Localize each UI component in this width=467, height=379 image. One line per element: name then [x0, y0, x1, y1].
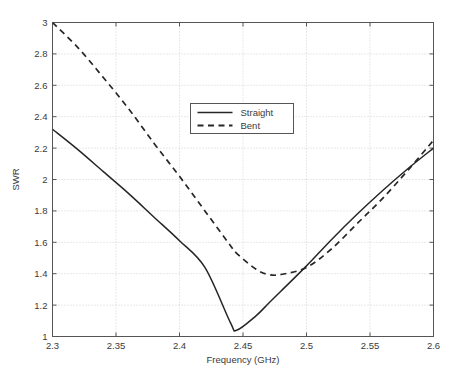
chart-figure: 11.21.41.61.822.22.42.62.832.32.352.42.4… — [0, 0, 467, 379]
x-tick-label: 2.5 — [300, 340, 313, 351]
x-tick-label: 2.45 — [234, 340, 253, 351]
chart-legend[interactable]: StraightBent — [191, 104, 294, 134]
y-tick-label: 1.8 — [34, 205, 47, 216]
y-tick-label: 1.6 — [34, 237, 47, 248]
x-axis-title: Frequency (GHz) — [207, 354, 280, 365]
y-tick-label: 2.2 — [34, 143, 47, 154]
y-axis-title: SWR — [10, 168, 21, 190]
x-tick-label: 2.4 — [173, 340, 186, 351]
y-tick-label: 2.6 — [34, 80, 47, 91]
y-tick-label: 1.2 — [34, 300, 47, 311]
y-tick-label: 2 — [42, 174, 47, 185]
y-tick-label: 2.8 — [34, 48, 47, 59]
legend-label-straight: Straight — [241, 107, 274, 118]
x-tick-label: 2.35 — [107, 340, 126, 351]
x-tick-label: 2.55 — [361, 340, 380, 351]
chart-background — [0, 0, 467, 379]
legend-label-bent: Bent — [241, 120, 261, 131]
x-tick-label: 2.6 — [427, 340, 440, 351]
y-tick-label: 2.4 — [34, 111, 47, 122]
swr-line-chart: 11.21.41.61.822.22.42.62.832.32.352.42.4… — [0, 0, 467, 379]
y-tick-label: 1.4 — [34, 268, 47, 279]
x-tick-label: 2.3 — [46, 340, 59, 351]
y-tick-label: 3 — [42, 17, 47, 28]
